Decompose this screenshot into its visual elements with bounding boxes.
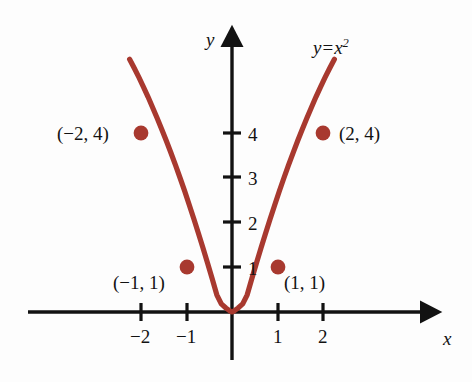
parabola-figure: y x 4 3 2 1 −2 −1 1 2 (−2, 4) (−1, 1) (1… xyxy=(0,0,472,382)
y-tick-label-1: 1 xyxy=(248,259,258,278)
point-neg1-1 xyxy=(180,260,195,275)
x-tick-label-neg2: −2 xyxy=(130,327,150,346)
plot-canvas xyxy=(0,0,472,382)
y-axis-label: y xyxy=(206,30,214,49)
point-label-pos1-1: (1, 1) xyxy=(284,273,325,292)
point-pos2-4 xyxy=(316,126,331,141)
y-tick-label-2: 2 xyxy=(248,214,258,233)
point-label-neg1-1: (−1, 1) xyxy=(113,273,165,292)
point-label-pos2-4: (2, 4) xyxy=(339,124,380,143)
equation-exponent: 2 xyxy=(343,36,349,50)
point-neg2-4 xyxy=(134,126,149,141)
y-tick-label-3: 3 xyxy=(248,169,258,188)
y-tick-label-4: 4 xyxy=(248,125,258,144)
equation-base: x xyxy=(334,37,342,58)
x-axis-label: x xyxy=(443,329,451,348)
x-tick-label-pos1: 1 xyxy=(273,327,283,346)
curve-equation-label: y=x2 xyxy=(313,38,349,57)
x-tick-label-pos2: 2 xyxy=(318,327,328,346)
x-tick-label-neg1: −1 xyxy=(176,327,196,346)
point-label-neg2-4: (−2, 4) xyxy=(57,124,109,143)
equation-operator: = xyxy=(321,37,334,58)
